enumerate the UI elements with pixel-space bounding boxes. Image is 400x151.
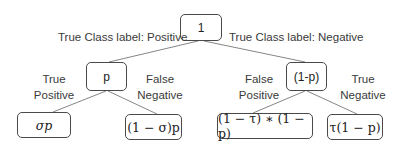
- edge-label-false-negative-line1: False: [133, 71, 187, 87]
- leaf-true-negative-label: τ(1 − p): [329, 120, 380, 135]
- edge-label-true-class-positive: True Class label: Positive: [58, 29, 187, 45]
- leaf-true-positive-label: σp: [36, 118, 53, 133]
- edge-label-true-class-negative: True Class label: Negative: [229, 29, 363, 45]
- edge-label-true-positive-line1: True: [30, 71, 78, 87]
- leaf-false-positive-label: (1 − τ) ∗ (1 − p): [218, 111, 312, 141]
- leaf-true-negative: τ(1 − p): [327, 114, 383, 140]
- node-1-minus-p-label: (1-p): [294, 70, 319, 84]
- node-p: p: [86, 62, 127, 91]
- edge-label-true-positive: True Positive: [30, 71, 78, 103]
- leaf-true-positive: σp: [17, 112, 71, 138]
- edge-label-true-negative-line2: Negative: [336, 87, 390, 103]
- leaf-false-negative-label: (1 − σ)p: [127, 120, 180, 135]
- edge-label-false-positive-line2: Positive: [235, 87, 283, 103]
- node-p-label: p: [103, 70, 110, 84]
- edge-label-false-negative-line2: Negative: [133, 87, 187, 103]
- edge-label-true-negative: True Negative: [336, 71, 390, 103]
- node-1-minus-p: (1-p): [286, 62, 327, 91]
- edge-label-true-positive-line2: Positive: [30, 87, 78, 103]
- edge-label-true-negative-line1: True: [336, 71, 390, 87]
- edge-label-false-negative: False Negative: [133, 71, 187, 103]
- root-node-label: 1: [198, 21, 205, 35]
- edge-label-false-positive: False Positive: [235, 71, 283, 103]
- leaf-false-negative: (1 − σ)p: [125, 114, 182, 140]
- edge-label-false-positive-line1: False: [235, 71, 283, 87]
- leaf-false-positive: (1 − τ) ∗ (1 − p): [217, 113, 313, 139]
